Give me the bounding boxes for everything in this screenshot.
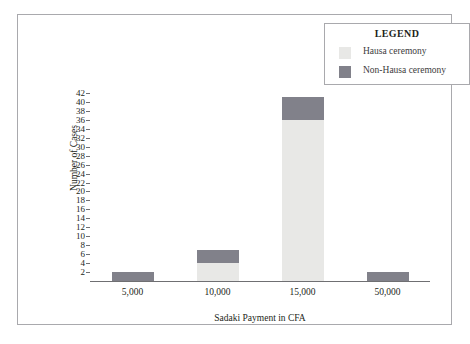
x-axis-tick-label: 50,000	[348, 287, 428, 297]
bar-group	[282, 97, 324, 281]
y-axis-ticks: 42403836343230282624222018161412108642	[68, 93, 90, 281]
bar-segment	[197, 250, 239, 263]
bar-segment	[282, 120, 324, 281]
legend-label-non-hausa-ceremony: Non-Hausa ceremony	[363, 65, 446, 75]
legend-swatch-hausa-ceremony	[339, 47, 351, 59]
x-axis-tick-label: 10,000	[178, 287, 258, 297]
bar-segment	[367, 272, 409, 281]
x-axis-tick-label: 15,000	[263, 287, 343, 297]
x-axis-title: Sadaki Payment in CFA	[90, 313, 430, 323]
legend-swatch-non-hausa-ceremony	[339, 66, 351, 78]
bar-group	[112, 272, 154, 281]
x-axis-line	[90, 281, 430, 282]
bar-segment	[282, 97, 324, 119]
x-axis-tick-label: 5,000	[93, 287, 173, 297]
bar-segment	[112, 272, 154, 281]
legend-label-hausa-ceremony: Hausa ceremony	[363, 46, 427, 56]
chart-legend: LEGEND Hausa ceremony Non-Hausa ceremony	[324, 23, 470, 85]
legend-title: LEGEND	[325, 28, 469, 39]
bar-group	[367, 272, 409, 281]
bar-group	[197, 250, 239, 281]
chart-frame: LEGEND Hausa ceremony Non-Hausa ceremony…	[17, 14, 452, 325]
plot-area	[90, 93, 430, 281]
bar-segment	[197, 263, 239, 281]
y-axis-tick-label: 2	[81, 268, 86, 277]
